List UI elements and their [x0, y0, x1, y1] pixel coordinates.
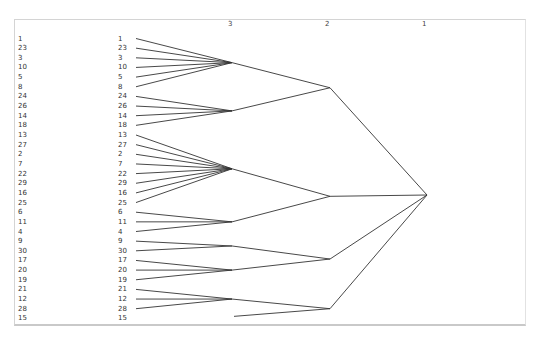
dendrogram-tree: [0, 0, 538, 337]
cluster-branch: [232, 299, 330, 309]
cluster-branch: [232, 88, 330, 111]
root-branch: [330, 195, 427, 196]
leaf-branch: [136, 289, 232, 299]
leaf-branch: [136, 212, 232, 222]
leaf-branch: [136, 299, 232, 309]
leaf-branch: [136, 241, 232, 246]
leaf-branch: [136, 169, 232, 203]
cluster-branch: [232, 246, 330, 259]
leaf-branch: [136, 222, 232, 232]
leaf-branch: [136, 260, 232, 270]
root-branch: [330, 88, 427, 195]
root-branch: [330, 195, 427, 309]
cluster-branch: [232, 259, 330, 270]
cluster-branch: [232, 196, 330, 222]
root-branch: [330, 195, 427, 259]
leaf-branch: [136, 246, 232, 251]
cluster-branch: [232, 63, 330, 88]
cluster-branch: [234, 309, 330, 317]
cluster-branch: [232, 169, 330, 197]
leaf-branch: [136, 135, 232, 169]
leaf-branch: [136, 270, 232, 280]
